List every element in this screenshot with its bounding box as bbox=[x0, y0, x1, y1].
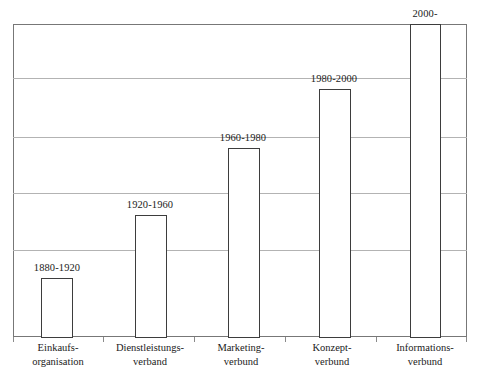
bar-value-label-4: 1980-2000 bbox=[289, 73, 379, 85]
category-label-3-line1: Marketing- bbox=[195, 341, 287, 355]
bar-value-label-1: 1880-1920 bbox=[12, 262, 102, 274]
category-label-3: Marketing- verbund bbox=[195, 341, 287, 369]
bar-4[interactable] bbox=[319, 89, 351, 338]
category-label-2: Dienstleistungs- verband bbox=[104, 341, 196, 369]
bar-3[interactable] bbox=[228, 148, 260, 338]
category-label-1-line1: Einkaufs- bbox=[12, 341, 104, 355]
category-label-1-line2: organisation bbox=[12, 355, 104, 369]
category-label-4-line2: verbund bbox=[286, 355, 378, 369]
gridline-1 bbox=[13, 78, 467, 79]
category-label-1: Einkaufs- organisation bbox=[12, 341, 104, 369]
category-label-5-line2: verbund bbox=[379, 355, 471, 369]
category-label-5-line1: Informations- bbox=[379, 341, 471, 355]
bar-value-label-3: 1960-1980 bbox=[198, 132, 288, 144]
bar-chart: 1880-1920 1920-1960 1960-1980 1980-2000 … bbox=[0, 0, 480, 378]
category-label-5: Informations- verbund bbox=[379, 341, 471, 369]
bar-1[interactable] bbox=[41, 278, 73, 338]
bar-5[interactable] bbox=[410, 24, 441, 338]
category-label-3-line2: verbund bbox=[195, 355, 287, 369]
bar-2[interactable] bbox=[135, 215, 167, 338]
bar-value-label-2: 1920-1960 bbox=[105, 199, 195, 211]
category-label-2-line2: verband bbox=[104, 355, 196, 369]
category-label-4-line1: Konzept- bbox=[286, 341, 378, 355]
category-label-2-line1: Dienstleistungs- bbox=[104, 341, 196, 355]
bar-value-label-5: 2000- bbox=[380, 8, 470, 20]
category-label-4: Konzept- verbund bbox=[286, 341, 378, 369]
